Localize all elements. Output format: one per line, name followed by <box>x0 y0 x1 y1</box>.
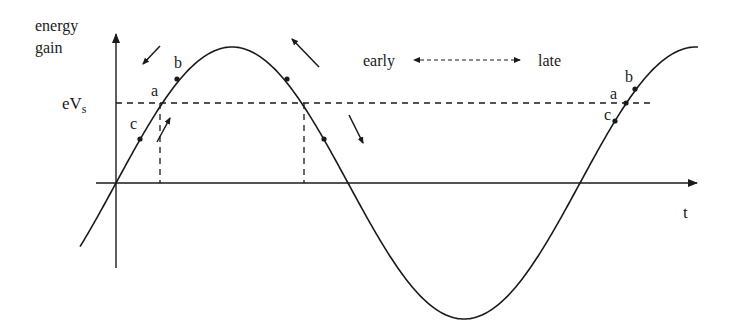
point-b-right <box>632 86 637 91</box>
y-axis-label-line2: gain <box>35 39 63 57</box>
late-label: late <box>538 52 561 69</box>
point-upper-right-of-peak <box>284 76 289 81</box>
label-a-left: a <box>151 82 158 99</box>
point-c-right <box>612 118 617 123</box>
y-axis-label-line1: energy <box>35 17 78 35</box>
arrow-down-right-icon <box>349 115 363 143</box>
arrow-up-left-icon <box>292 39 319 67</box>
label-c-right: c <box>604 106 611 123</box>
point-c-left <box>137 136 142 141</box>
label-b-left: b <box>174 54 182 71</box>
arrow-down-left-icon <box>143 46 160 64</box>
early-label: early <box>363 52 395 70</box>
diagram-svg: energy gain eVs t early late a b c a b c <box>0 0 736 333</box>
phase-stability-diagram: energy gain eVs t early late a b c a b c <box>0 0 736 333</box>
label-c-left: c <box>130 115 137 132</box>
evs-subscript: s <box>82 102 87 116</box>
x-axis-label: t <box>683 203 688 222</box>
evs-main: eV <box>62 94 83 113</box>
point-a-right <box>623 100 628 105</box>
label-a-right: a <box>610 85 617 102</box>
point-b-left <box>174 76 179 81</box>
synchronous-level-label: eVs <box>62 94 87 116</box>
label-b-right: b <box>625 68 633 85</box>
early-arrowhead-icon <box>413 57 420 63</box>
arrow-up-right-icon <box>157 118 170 142</box>
point-lower-right-of-peak <box>321 136 326 141</box>
